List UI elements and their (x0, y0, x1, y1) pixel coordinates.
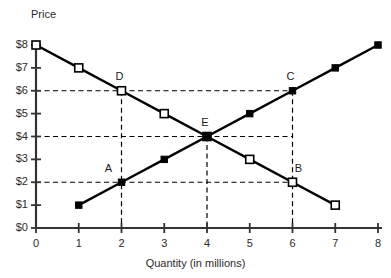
y-tick-label: $3 (4, 152, 28, 164)
point-label-e: E (197, 116, 213, 128)
data-point-marker-supply (204, 133, 210, 139)
x-tick-label: 3 (154, 237, 174, 249)
point-label-a: A (101, 162, 117, 174)
data-point-marker-supply (161, 156, 167, 162)
x-tick-label: 8 (368, 237, 388, 249)
point-label-b: B (291, 162, 307, 174)
data-point-marker-supply (375, 42, 381, 48)
y-tick-label: $6 (4, 84, 28, 96)
data-point-marker-demand (331, 201, 339, 209)
x-tick-label: 2 (112, 237, 132, 249)
y-tick-label: $5 (4, 107, 28, 119)
x-tick-label: 4 (197, 237, 217, 249)
y-tick-label: $1 (4, 198, 28, 210)
y-tick-label: $8 (4, 38, 28, 50)
data-point-marker-demand (75, 64, 83, 72)
data-point-marker-demand (289, 178, 297, 186)
point-label-c: C (283, 70, 299, 82)
y-tick-label: $7 (4, 61, 28, 73)
data-point-marker-supply (332, 65, 338, 71)
point-label-d: D (112, 70, 128, 82)
data-point-marker-demand (32, 41, 40, 49)
data-point-marker-supply (118, 179, 124, 185)
x-tick-label: 1 (69, 237, 89, 249)
data-point-marker-demand (118, 87, 126, 95)
data-point-marker-supply (247, 110, 253, 116)
x-tick-label: 6 (283, 237, 303, 249)
x-tick-label: 0 (26, 237, 46, 249)
y-tick-label: $4 (4, 130, 28, 142)
data-point-marker-demand (160, 110, 168, 118)
supply-demand-chart: Price Quantity (in millions) $0$1$2$3$4$… (0, 0, 391, 278)
y-tick-label: $2 (4, 175, 28, 187)
x-tick-label: 7 (325, 237, 345, 249)
x-axis-title: Quantity (in millions) (0, 257, 391, 269)
y-axis-title: Price (31, 8, 56, 20)
x-tick-label: 5 (240, 237, 260, 249)
data-point-marker-demand (246, 155, 254, 163)
y-tick-label: $0 (4, 221, 28, 233)
data-point-marker-supply (76, 202, 82, 208)
data-point-marker-supply (289, 88, 295, 94)
